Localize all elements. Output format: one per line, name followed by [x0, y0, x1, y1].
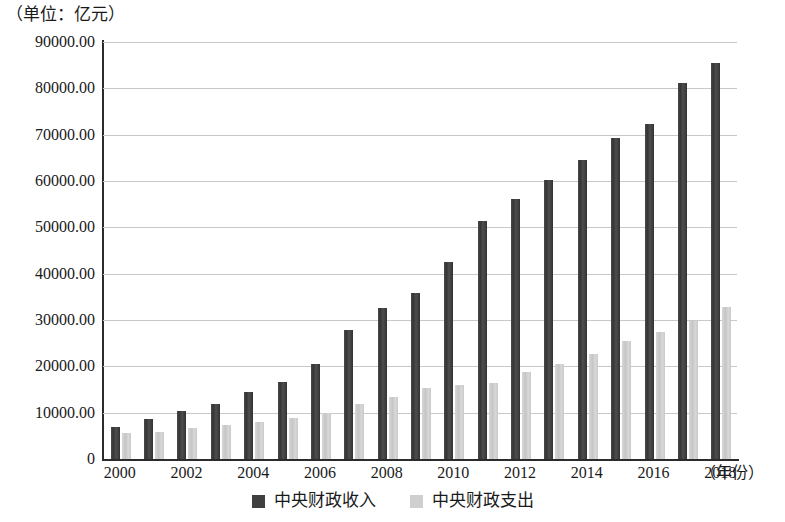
bar-expenditure — [188, 428, 197, 459]
y-axis-tick-label: 70000.00 — [0, 127, 95, 143]
bar-chart: （单位：亿元） 010000.0020000.0030000.0040000.0… — [0, 0, 785, 522]
bar-expenditure — [222, 425, 231, 459]
x-axis-tick-label: 2008 — [357, 464, 417, 482]
bar-expenditure — [656, 332, 665, 459]
bar-group — [311, 42, 331, 459]
x-axis-line — [102, 459, 739, 461]
y-axis-tick-label: 60000.00 — [0, 173, 95, 189]
bar-expenditure — [389, 397, 398, 459]
legend-item[interactable]: 中央财政收入 — [252, 492, 376, 510]
bar-expenditure — [555, 364, 564, 459]
bar-revenue — [177, 411, 186, 459]
bar-group — [678, 42, 698, 459]
x-axis-title: （年份） — [700, 464, 764, 482]
bar-revenue — [544, 180, 553, 459]
bar-group — [511, 42, 531, 459]
bar-expenditure — [722, 307, 731, 459]
bar-group — [278, 42, 298, 459]
x-axis-tick-label: 2002 — [156, 464, 216, 482]
bar-expenditure — [455, 385, 464, 459]
bar-revenue — [244, 392, 253, 459]
y-axis-tick-label: 10000.00 — [0, 405, 95, 421]
legend-item[interactable]: 中央财政支出 — [410, 492, 534, 510]
bar-group — [544, 42, 564, 459]
bar-group — [111, 42, 131, 459]
bar-expenditure — [522, 372, 531, 459]
bar-group — [177, 42, 197, 459]
bar-group — [411, 42, 431, 459]
bar-expenditure — [689, 321, 698, 459]
x-axis-tick-label: 2014 — [557, 464, 617, 482]
x-axis-tick-label: 2000 — [90, 464, 150, 482]
bar-expenditure — [289, 418, 298, 459]
bar-revenue — [645, 124, 654, 459]
bar-revenue — [478, 221, 487, 459]
x-axis-tick-label: 2004 — [223, 464, 283, 482]
legend-swatch-revenue-icon — [252, 495, 265, 508]
bar-expenditure — [122, 433, 131, 459]
x-axis-tick-label: 2010 — [423, 464, 483, 482]
y-axis-tick-label: 0 — [0, 451, 95, 467]
y-axis-tick-label: 40000.00 — [0, 266, 95, 282]
y-axis-tick-label: 80000.00 — [0, 80, 95, 96]
bar-group — [444, 42, 464, 459]
y-axis-tick-label: 30000.00 — [0, 312, 95, 328]
bar-revenue — [611, 138, 620, 459]
bar-expenditure — [255, 422, 264, 459]
bar-group — [645, 42, 665, 459]
bar-revenue — [711, 63, 720, 459]
bar-revenue — [511, 199, 520, 459]
bar-expenditure — [489, 383, 498, 460]
bar-expenditure — [322, 413, 331, 459]
bar-expenditure — [355, 404, 364, 459]
legend-swatch-expenditure-icon — [410, 495, 423, 508]
bar-revenue — [311, 364, 320, 459]
bar-group — [244, 42, 264, 459]
bar-group — [378, 42, 398, 459]
bar-revenue — [111, 427, 120, 459]
x-axis-tick-label: 2016 — [624, 464, 684, 482]
bar-group — [611, 42, 631, 459]
bar-revenue — [411, 293, 420, 459]
bar-revenue — [444, 262, 453, 459]
x-axis-tick-label: 2012 — [490, 464, 550, 482]
chart-legend: 中央财政收入中央财政支出 — [0, 492, 785, 510]
bar-revenue — [344, 330, 353, 459]
bar-group — [211, 42, 231, 459]
bar-expenditure — [622, 341, 631, 459]
plot-area — [103, 42, 737, 459]
bar-group — [711, 42, 731, 459]
bar-revenue — [144, 419, 153, 459]
bar-expenditure — [155, 432, 164, 459]
bar-revenue — [278, 382, 287, 459]
y-axis-tick-label: 20000.00 — [0, 358, 95, 374]
legend-label: 中央财政收入 — [274, 492, 376, 510]
bar-expenditure — [589, 354, 598, 459]
chart-unit-caption: （单位：亿元） — [6, 4, 125, 26]
legend-label: 中央财政支出 — [432, 492, 534, 510]
bar-group — [578, 42, 598, 459]
bar-group — [478, 42, 498, 459]
bar-group — [144, 42, 164, 459]
bar-group — [344, 42, 364, 459]
bar-revenue — [678, 83, 687, 459]
bar-revenue — [378, 308, 387, 459]
y-axis-tick-label: 50000.00 — [0, 219, 95, 235]
x-axis-tick-label: 2006 — [290, 464, 350, 482]
bar-revenue — [211, 404, 220, 459]
y-axis-tick-label: 90000.00 — [0, 34, 95, 50]
bar-revenue — [578, 160, 587, 459]
bar-expenditure — [422, 388, 431, 459]
